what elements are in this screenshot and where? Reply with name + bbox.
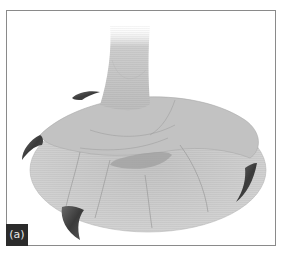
talon-front-left [62,206,84,240]
leg [100,25,150,110]
bird-foot-illustration [0,0,285,257]
panel-label: (a) [6,224,28,246]
talon-rear [72,91,100,100]
